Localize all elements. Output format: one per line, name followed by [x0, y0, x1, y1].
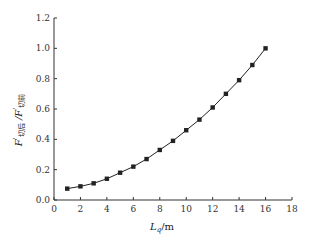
- y-tick-label: 0.0: [36, 195, 51, 205]
- data-point-marker: [158, 148, 162, 152]
- data-point-marker: [250, 63, 254, 67]
- data-point-marker: [78, 184, 82, 188]
- y-tick-label: 0.2: [36, 165, 50, 175]
- x-tick-label: 2: [78, 204, 84, 214]
- axes: [54, 18, 292, 200]
- y-tick-label: 0.4: [36, 134, 51, 144]
- data-point-marker: [210, 105, 214, 109]
- data-point-marker: [237, 78, 241, 82]
- x-tick-label: 8: [157, 204, 163, 214]
- data-point-marker: [144, 157, 148, 161]
- data-point-marker: [263, 46, 267, 50]
- y-tick-label: 0.6: [36, 104, 51, 114]
- x-tick-label: 18: [286, 204, 298, 214]
- data-point-marker: [184, 128, 188, 132]
- line-chart: 0.00.20.40.60.81.01.2 024681012141618 Lq…: [0, 0, 309, 242]
- x-tick-label: 12: [207, 204, 218, 214]
- y-tick-label: 0.8: [36, 74, 51, 84]
- plot-area: [65, 46, 268, 191]
- data-point-marker: [105, 177, 109, 181]
- x-tick-label: 0: [51, 204, 57, 214]
- x-tick-label: 14: [233, 204, 245, 214]
- x-tick-label: 10: [180, 204, 192, 214]
- x-tick-label: 6: [130, 204, 136, 214]
- data-point-marker: [131, 164, 135, 168]
- data-point-marker: [171, 139, 175, 143]
- data-point-marker: [65, 186, 69, 190]
- series-line: [67, 48, 265, 188]
- x-axis-label: Lq/m: [149, 221, 174, 234]
- y-axis-label: F'切后 /F'切前: [12, 94, 26, 147]
- data-point-marker: [197, 117, 201, 121]
- x-tick-label: 16: [260, 204, 272, 214]
- data-point-marker: [118, 171, 122, 175]
- y-tick-label: 1.0: [36, 43, 51, 53]
- data-point-marker: [224, 92, 228, 96]
- data-point-marker: [91, 181, 95, 185]
- y-tick-label: 1.2: [36, 13, 50, 23]
- x-tick-label: 4: [104, 204, 110, 214]
